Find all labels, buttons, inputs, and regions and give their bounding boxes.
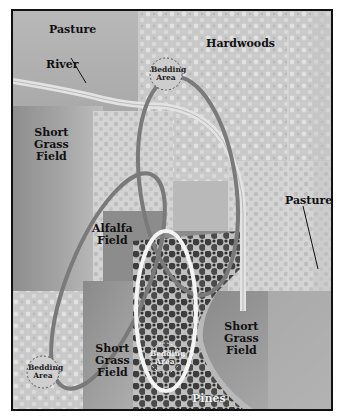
label-short-grass-bottom-center: Short Grass Field <box>95 343 130 379</box>
bedding-label-top: Bedding Area <box>151 66 181 82</box>
label-short-grass-left: Short Grass Field <box>34 127 69 163</box>
label-short-grass-bottom-right: Short Grass Field <box>224 321 259 357</box>
bedding-label-pines: Bedding Area <box>150 350 180 366</box>
bedding-label-bottom-left: Bedding Area <box>28 364 58 380</box>
label-river: River <box>46 59 79 71</box>
map-frame: Pasture Hardwoods River Short Grass Fiel… <box>11 9 333 411</box>
label-alfalfa: Alfalfa Field <box>92 223 133 247</box>
label-hardwoods: Hardwoods <box>206 38 275 50</box>
label-pasture-right: Pasture <box>285 195 332 207</box>
label-pines: Pines <box>192 393 226 405</box>
label-pasture-top: Pasture <box>49 24 96 36</box>
